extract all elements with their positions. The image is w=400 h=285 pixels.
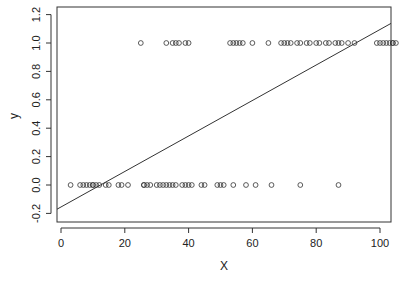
data-point (221, 183, 226, 188)
y-tick-label: 0.6 (30, 92, 42, 107)
data-point (68, 183, 73, 188)
data-point (173, 183, 178, 188)
data-point (148, 183, 153, 188)
data-point (250, 41, 255, 46)
data-points (68, 41, 398, 188)
x-tick-label: 100 (371, 237, 389, 249)
data-point (177, 41, 182, 46)
data-point (346, 41, 351, 46)
data-point (240, 41, 245, 46)
data-point (138, 41, 143, 46)
data-point (339, 41, 344, 46)
data-point (189, 183, 194, 188)
scatter-chart: 020406080100 -0.20.00.20.40.60.81.01.2 X… (0, 0, 400, 285)
x-tick-label: 80 (310, 237, 322, 249)
x-tick-label: 40 (182, 237, 194, 249)
y-tick-label: 0.2 (30, 149, 42, 164)
data-point (394, 41, 399, 46)
data-point (202, 183, 207, 188)
x-tick-label: 20 (119, 237, 131, 249)
data-point (244, 183, 249, 188)
data-point (164, 41, 169, 46)
y-tick-label: 0.8 (30, 64, 42, 79)
data-point (317, 41, 322, 46)
y-tick-label: 1.0 (30, 35, 42, 50)
regression-line (57, 23, 391, 209)
x-axis: 020406080100 (58, 228, 389, 249)
data-point (186, 41, 191, 46)
data-point (298, 41, 303, 46)
y-axis: -0.20.00.20.40.60.81.01.2 (30, 7, 51, 223)
data-point (336, 183, 341, 188)
data-point (106, 183, 111, 188)
x-tick-label: 60 (246, 237, 258, 249)
y-tick-label: 1.2 (30, 7, 42, 22)
data-point (253, 183, 258, 188)
data-point (269, 183, 274, 188)
y-tick-label: 0.0 (30, 177, 42, 192)
data-point (231, 183, 236, 188)
data-point (126, 183, 131, 188)
plot-frame (57, 7, 391, 222)
y-axis-label: y (7, 113, 21, 119)
x-axis-label: X (220, 259, 228, 273)
data-point (288, 41, 293, 46)
data-point (298, 183, 303, 188)
data-point (119, 183, 124, 188)
y-tick-label: -0.2 (30, 204, 42, 223)
data-point (266, 41, 271, 46)
y-tick-label: 0.4 (30, 121, 42, 136)
data-point (307, 41, 312, 46)
x-tick-label: 0 (58, 237, 64, 249)
data-point (327, 41, 332, 46)
